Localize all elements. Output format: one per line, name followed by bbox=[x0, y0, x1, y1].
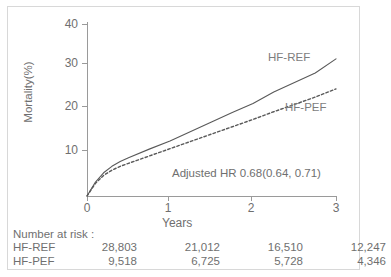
table-row: HF-PEF 9,518 6,725 5,728 4,346 bbox=[13, 255, 353, 269]
risk-value-hf-ref-0: 28,803 bbox=[65, 241, 148, 255]
risk-value-hf-pef-0: 9,518 bbox=[65, 255, 148, 269]
risk-row-label-hf-pef: HF-PEF bbox=[13, 255, 65, 269]
hazard-ratio-annotation: Adjusted HR 0.68(0.64, 0.71) bbox=[172, 167, 321, 179]
series-label-hf-ref: HF-REF bbox=[268, 51, 310, 63]
risk-value-hf-pef-2: 5,728 bbox=[231, 255, 314, 269]
risk-value-hf-pef-3: 4,346 bbox=[314, 255, 391, 269]
series-label-hf-pef: HF-PEF bbox=[285, 101, 327, 113]
risk-value-hf-pef-1: 6,725 bbox=[148, 255, 231, 269]
number-at-risk-table: Number at risk : HF-REF 28,803 21,012 16… bbox=[13, 228, 353, 268]
risk-row-label-hf-ref: HF-REF bbox=[13, 241, 65, 255]
risk-value-hf-ref-2: 16,510 bbox=[231, 241, 314, 255]
table-row: HF-REF 28,803 21,012 16,510 12,247 bbox=[13, 241, 353, 255]
risk-value-hf-ref-1: 21,012 bbox=[148, 241, 231, 255]
risk-table-title: Number at risk : bbox=[13, 228, 353, 241]
risk-value-hf-ref-3: 12,247 bbox=[314, 241, 391, 255]
